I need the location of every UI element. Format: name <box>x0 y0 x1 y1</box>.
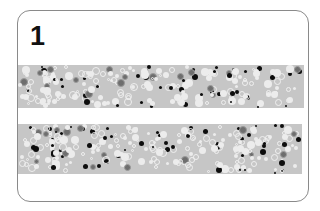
dot-decoration <box>60 78 63 81</box>
dot-decoration <box>70 126 72 128</box>
dot-decoration <box>56 139 61 144</box>
dot-decoration <box>286 87 291 92</box>
dot-decoration <box>230 101 232 103</box>
dot-decoration <box>159 86 162 89</box>
dot-decoration <box>98 130 105 137</box>
dot-decoration <box>235 90 239 94</box>
dot-decoration <box>274 168 277 171</box>
dot-decoration <box>43 131 49 137</box>
dot-decoration <box>264 80 272 88</box>
dot-decoration <box>228 167 234 173</box>
dot-decoration <box>65 125 70 130</box>
dot-decoration <box>132 144 136 148</box>
dot-decoration <box>128 129 133 134</box>
dot-decoration <box>264 157 268 161</box>
dot-decoration <box>255 139 262 146</box>
dot-decoration <box>280 151 287 158</box>
dot-decoration <box>200 93 203 96</box>
dot-decoration <box>193 154 199 160</box>
dot-decoration <box>108 71 113 76</box>
dot-decoration <box>82 82 86 86</box>
dot-decoration <box>255 76 259 80</box>
dot-decoration <box>93 78 99 84</box>
dot-decoration <box>164 141 168 145</box>
dot-decoration <box>249 81 254 86</box>
dot-decoration <box>159 74 162 77</box>
dot-decoration <box>27 102 30 105</box>
dot-decoration <box>274 172 276 174</box>
dot-decoration <box>260 149 266 155</box>
dot-decoration <box>166 162 169 165</box>
dot-decoration <box>136 74 140 78</box>
dot-decoration <box>234 154 238 158</box>
dot-decoration <box>26 88 32 94</box>
dot-decoration <box>203 129 208 134</box>
dot-decoration <box>294 146 298 150</box>
dot-decoration <box>235 85 238 88</box>
dot-decoration <box>71 136 79 144</box>
dot-decoration <box>108 144 113 149</box>
dot-decoration <box>213 133 216 136</box>
dot-decoration <box>286 65 294 73</box>
dot-decoration <box>65 72 73 80</box>
dot-decoration <box>138 158 145 165</box>
dot-decoration <box>177 133 181 137</box>
dot-decoration <box>18 83 22 87</box>
dot-decoration <box>140 101 143 104</box>
dot-decoration <box>73 144 79 150</box>
dot-decoration <box>151 77 154 80</box>
dot-decoration <box>271 91 278 98</box>
dot-decoration <box>280 169 284 173</box>
dot-decoration <box>27 94 35 102</box>
dot-decoration <box>207 170 210 173</box>
dot-decoration <box>154 77 158 81</box>
dot-decoration <box>263 142 266 145</box>
dot-decoration <box>45 76 52 83</box>
dot-decoration <box>116 144 120 148</box>
dot-decoration <box>274 78 281 85</box>
dot-decoration <box>146 84 153 91</box>
dot-decoration <box>282 134 288 140</box>
dot-decoration <box>207 73 210 76</box>
dot-decoration <box>123 136 127 140</box>
dot-decoration <box>96 85 99 88</box>
dot-decoration <box>128 66 132 70</box>
dot-decoration <box>106 101 110 105</box>
dot-decoration <box>45 143 49 147</box>
dot-decoration <box>218 125 222 129</box>
dot-decoration <box>248 149 252 153</box>
dot-decoration <box>192 137 195 140</box>
dot-decoration <box>177 139 182 144</box>
dot-decoration <box>35 98 41 104</box>
dot-decoration <box>156 68 162 74</box>
dot-decoration <box>213 70 216 73</box>
dot-decoration <box>189 152 193 156</box>
dot-decoration <box>286 98 291 103</box>
dot-decoration <box>132 134 139 141</box>
dot-decoration <box>185 65 189 69</box>
dot-decoration <box>88 71 94 77</box>
dot-decoration <box>163 72 169 78</box>
dot-decoration <box>20 155 24 159</box>
dot-decoration <box>205 101 209 105</box>
dot-decoration <box>107 78 110 81</box>
dot-decoration <box>293 164 297 168</box>
dot-decoration <box>51 165 56 170</box>
dot-decoration <box>91 100 94 103</box>
dot-decoration <box>114 138 119 143</box>
dot-decoration <box>186 164 193 171</box>
dot-decoration <box>94 101 101 108</box>
dot-decoration <box>128 141 132 145</box>
dot-decoration <box>228 133 232 137</box>
dot-decoration <box>275 86 279 90</box>
dot-decoration <box>69 91 77 99</box>
dot-decoration <box>250 156 254 160</box>
dot-decoration <box>88 86 95 93</box>
dot-decoration <box>232 78 238 84</box>
dot-decoration <box>244 169 246 171</box>
dot-decoration <box>250 126 256 132</box>
card: 1 <box>17 10 309 202</box>
dot-decoration <box>230 91 235 96</box>
dot-decoration <box>117 89 124 96</box>
dot-decoration <box>244 70 247 73</box>
